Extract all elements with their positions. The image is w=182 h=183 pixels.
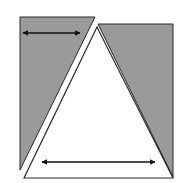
triangle-dissection-diagram	[0, 0, 182, 183]
